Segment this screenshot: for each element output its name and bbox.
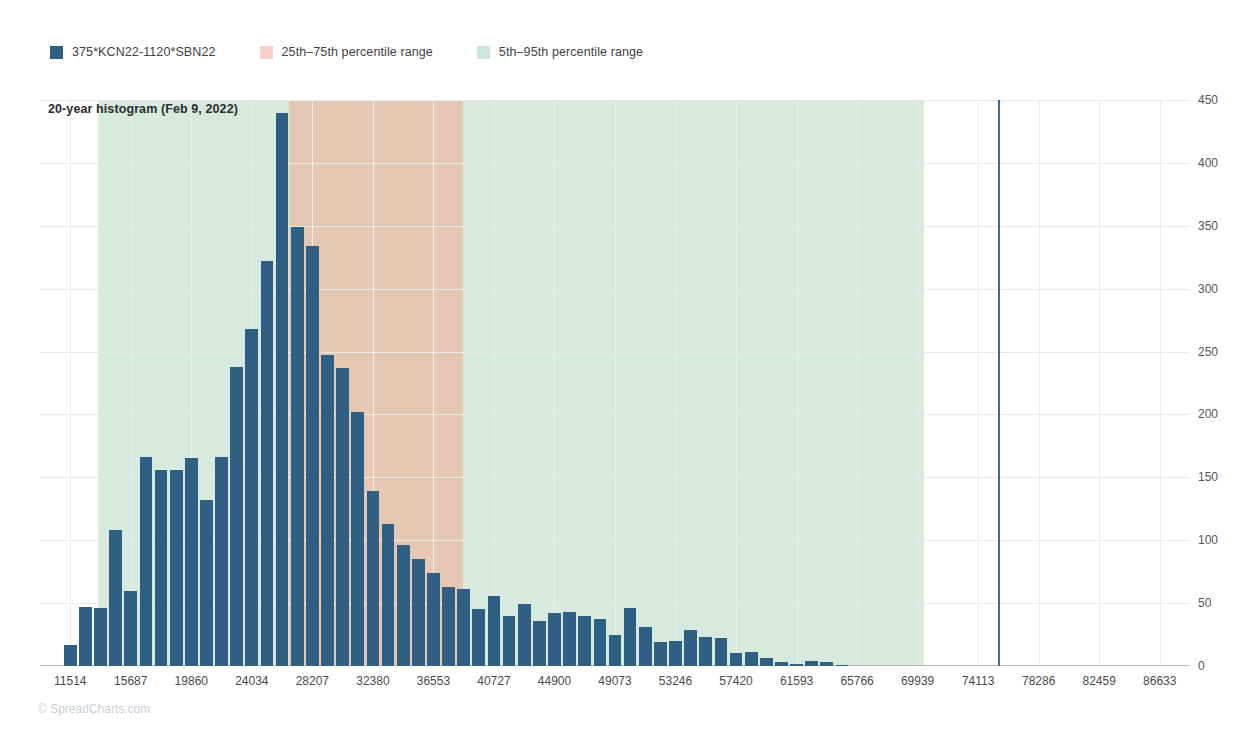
histogram-bar — [79, 607, 92, 666]
histogram-bar — [730, 653, 743, 666]
histogram-bar — [215, 457, 228, 666]
x-axis-tick-label: 11514 — [54, 674, 86, 688]
histogram-bar — [321, 355, 334, 666]
histogram-bar — [775, 662, 788, 666]
x-axis-tick-label: 53246 — [659, 674, 692, 688]
x-axis-tick-label: 65766 — [840, 674, 873, 688]
histogram-bar — [397, 545, 410, 666]
x-axis-tick-label: 61593 — [780, 674, 813, 688]
histogram-bar — [336, 368, 349, 666]
histogram-bar — [230, 367, 243, 666]
y-axis-tick-label: 200 — [1198, 407, 1218, 421]
square-swatch-icon — [477, 46, 490, 59]
histogram-bar — [457, 589, 470, 666]
y-axis-tick-label: 50 — [1198, 596, 1211, 610]
chart-legend: 375*KCN22-1120*SBN22 25th–75th percentil… — [50, 42, 687, 62]
histogram-bar — [472, 609, 485, 666]
legend-item-series[interactable]: 375*KCN22-1120*SBN22 — [50, 45, 216, 59]
legend-item-iqr-band[interactable]: 25th–75th percentile range — [260, 45, 433, 59]
histogram-bar — [563, 612, 576, 666]
histogram-bar — [64, 645, 77, 666]
histogram-bar — [805, 661, 818, 666]
histogram-bar — [124, 591, 137, 666]
y-axis-tick-label: 300 — [1198, 282, 1218, 296]
y-axis-tick-label: 100 — [1198, 533, 1218, 547]
histogram-bar — [245, 329, 258, 666]
histogram-bar — [185, 458, 198, 666]
histogram-bar — [382, 524, 395, 666]
x-axis-tick-label: 19860 — [175, 674, 208, 688]
histogram-bar — [291, 227, 304, 666]
x-axis-tick-label: 86633 — [1143, 674, 1176, 688]
watermark: © SpreadCharts.com — [38, 702, 150, 716]
histogram-bar — [367, 491, 380, 666]
histogram-bar — [276, 113, 289, 666]
x-axis-tick-label: 78286 — [1022, 674, 1055, 688]
histogram-bar — [836, 665, 849, 666]
y-axis-tick-label: 450 — [1198, 93, 1218, 107]
y-axis-tick-label: 350 — [1198, 219, 1218, 233]
x-axis-tick-label: 28207 — [296, 674, 329, 688]
x-axis-tick-label: 49073 — [598, 674, 631, 688]
histogram-bar — [594, 619, 607, 666]
histogram-bar — [170, 470, 183, 666]
chart-title: 20-year histogram (Feb 9, 2022) — [48, 102, 238, 116]
x-axis-tick-label: 69939 — [901, 674, 934, 688]
histogram-bar — [94, 608, 107, 666]
histogram-bar — [669, 641, 682, 666]
x-axis-labels: 1151415687198602403428207323803655340727… — [0, 674, 1257, 704]
histogram-bar — [654, 642, 667, 666]
x-axis-tick-label: 15687 — [114, 674, 147, 688]
current-value-marker-line — [998, 100, 1000, 666]
chart-area: 20-year histogram (Feb 9, 2022) 05010015… — [0, 96, 1257, 742]
histogram-bar — [639, 627, 652, 666]
histogram-bar — [351, 412, 364, 666]
histogram-bar — [261, 261, 274, 666]
x-axis-tick-label: 32380 — [356, 674, 389, 688]
histogram-bar — [488, 596, 501, 666]
legend-item-label: 375*KCN22-1120*SBN22 — [72, 45, 216, 59]
histogram-bar — [427, 573, 440, 666]
histogram-bars — [40, 100, 1190, 666]
histogram-bar — [760, 658, 773, 666]
square-swatch-icon — [50, 46, 63, 59]
histogram-bar — [715, 638, 728, 666]
legend-item-p5-p95-band[interactable]: 5th–95th percentile range — [477, 45, 643, 59]
y-axis-tick-label: 250 — [1198, 345, 1218, 359]
histogram-bar — [442, 587, 455, 666]
x-axis-tick-label: 36553 — [417, 674, 450, 688]
histogram-plot[interactable]: 20-year histogram (Feb 9, 2022) — [40, 100, 1190, 666]
histogram-bar — [745, 652, 758, 666]
histogram-bar — [548, 613, 561, 666]
histogram-bar — [684, 630, 697, 666]
y-axis-labels: 050100150200250300350400450 — [1198, 96, 1254, 670]
histogram-bar — [503, 616, 516, 666]
histogram-bar — [412, 559, 425, 666]
histogram-bar — [578, 616, 591, 666]
square-swatch-icon — [260, 46, 273, 59]
y-axis-tick-label: 150 — [1198, 470, 1218, 484]
legend-item-label: 5th–95th percentile range — [499, 45, 643, 59]
x-axis-tick-label: 74113 — [962, 674, 994, 688]
x-axis-tick-label: 44900 — [538, 674, 571, 688]
x-axis-tick-label: 24034 — [235, 674, 268, 688]
x-axis-tick-label: 82459 — [1083, 674, 1116, 688]
x-axis-tick-label: 40727 — [477, 674, 510, 688]
y-axis-tick-label: 0 — [1198, 659, 1205, 673]
histogram-bar — [624, 608, 637, 666]
histogram-bar — [155, 470, 168, 666]
histogram-bar — [609, 635, 622, 666]
histogram-bar — [533, 621, 546, 666]
histogram-bar — [109, 530, 122, 666]
histogram-bar — [518, 604, 531, 666]
x-axis-tick-label: 57420 — [719, 674, 752, 688]
histogram-bar — [200, 500, 213, 666]
histogram-bar — [699, 637, 712, 666]
histogram-bar — [140, 457, 153, 666]
legend-item-label: 25th–75th percentile range — [282, 45, 433, 59]
histogram-bar — [790, 664, 803, 667]
histogram-bar — [306, 246, 319, 666]
histogram-bar — [820, 662, 833, 666]
y-axis-tick-label: 400 — [1198, 156, 1218, 170]
